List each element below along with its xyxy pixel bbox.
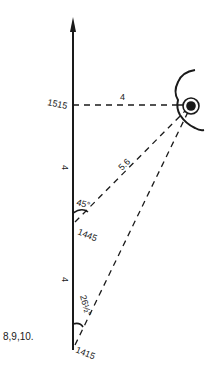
doubling-angle-on-bow-diagram: 1515 4 4 5.6 45° 1445 4 26½° 1415 8,9,10… bbox=[0, 0, 215, 379]
angle-26-label: 26½° bbox=[78, 294, 93, 317]
time-1415-label: 1415 bbox=[74, 345, 96, 362]
angle-arc-45 bbox=[73, 210, 88, 213]
bearing-45-line bbox=[75, 110, 186, 222]
upper-segment-distance-label: 4 bbox=[60, 165, 70, 170]
course-arrow-icon bbox=[70, 17, 76, 32]
angle-arc-26 bbox=[73, 323, 83, 327]
bearing-45-distance-label: 5.6 bbox=[116, 156, 132, 172]
time-1445-label: 1445 bbox=[76, 227, 98, 244]
time-1515-label: 1515 bbox=[47, 97, 69, 111]
angle-45-label: 45° bbox=[75, 197, 91, 210]
figure-label: 8,9,10. bbox=[3, 331, 34, 342]
lighthouse-dot-icon bbox=[186, 101, 196, 111]
lower-segment-distance-label: 4 bbox=[60, 277, 70, 282]
abeam-distance-label: 4 bbox=[120, 92, 125, 102]
